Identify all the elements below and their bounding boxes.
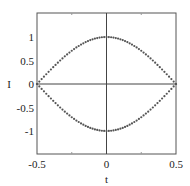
chart: -1-0.500.51 -0.500.5 I t [0,0,190,186]
y-tick-label: 0 [29,78,35,90]
y-tick-label: -0.5 [17,102,35,114]
x-tick-label: 0 [104,158,110,170]
y-tick-label: -1 [25,125,34,137]
y-tick-label: 1 [29,31,35,43]
y-axis-label: I [7,78,11,90]
x-tick-label: -0.5 [28,158,46,170]
y-tick-labels: -1-0.500.51 [17,31,35,137]
x-tick-label: 0.5 [169,158,183,170]
x-axis-label: t [105,173,108,185]
x-tick-labels: -0.500.5 [28,158,183,170]
y-tick-label: 0.5 [20,55,34,67]
